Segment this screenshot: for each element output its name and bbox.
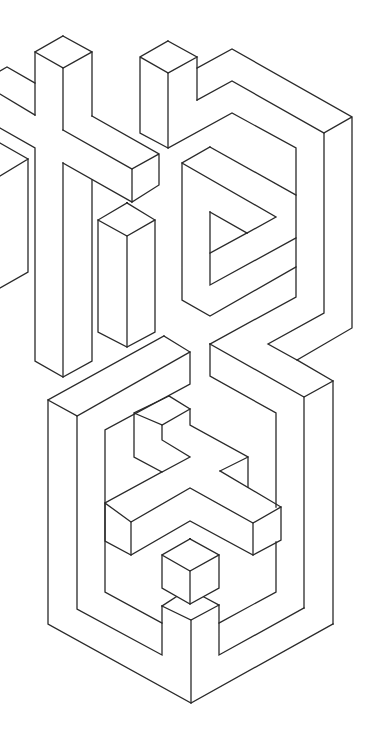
line-stroke <box>63 36 92 116</box>
line-stroke <box>162 597 176 606</box>
line-stroke <box>210 344 333 397</box>
line-stroke <box>210 233 247 253</box>
line-stroke <box>140 41 168 148</box>
line-stroke <box>210 147 296 195</box>
lower-inner-strokes <box>134 396 248 487</box>
crossbar <box>105 471 281 555</box>
lower-outer-frame <box>48 336 333 703</box>
line-stroke <box>210 212 247 233</box>
line-stroke <box>77 352 190 416</box>
line-stroke <box>134 396 190 472</box>
line-stroke <box>210 344 276 507</box>
left-edge-block <box>0 143 28 288</box>
line-stroke <box>220 457 248 471</box>
line-stroke <box>63 130 132 169</box>
line-stroke <box>35 52 63 130</box>
inner-p-shape <box>182 147 296 316</box>
line-stroke <box>63 163 132 202</box>
line-stroke <box>35 36 63 115</box>
small-cube <box>162 539 219 604</box>
line-stroke <box>162 555 219 571</box>
line-stroke <box>98 220 155 236</box>
line-stroke <box>92 116 159 202</box>
line-stroke <box>197 81 324 133</box>
line-stroke <box>190 409 248 487</box>
upper-right-box <box>140 41 197 148</box>
line-stroke <box>0 159 28 288</box>
line-stroke <box>63 52 92 68</box>
line-stroke <box>0 128 92 377</box>
upper-left-cross <box>0 36 159 377</box>
isometric-line-drawing <box>0 0 368 732</box>
line-stroke <box>105 488 281 523</box>
line-stroke <box>0 67 35 83</box>
upper-right-frame <box>168 49 352 360</box>
middle-tall-box <box>98 203 155 347</box>
line-stroke <box>0 143 28 176</box>
line-stroke <box>162 605 304 655</box>
line-stroke <box>204 597 219 605</box>
line-stroke <box>168 41 197 73</box>
line-stroke <box>197 49 352 360</box>
line-stroke <box>162 396 190 425</box>
line-stroke <box>219 542 276 623</box>
line-stroke <box>0 94 35 115</box>
line-stroke <box>168 113 296 344</box>
right-connector <box>210 344 333 624</box>
